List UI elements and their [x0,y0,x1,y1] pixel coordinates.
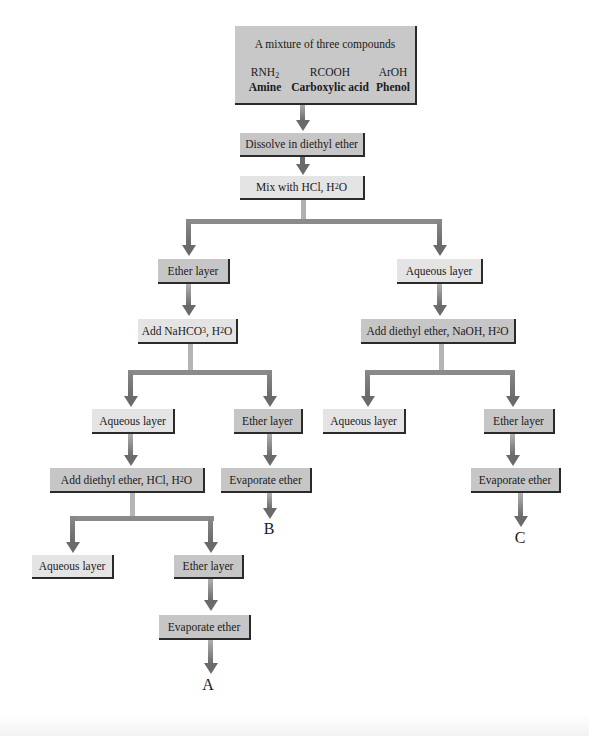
arrow-down-icon [182,245,196,256]
connector-line [128,370,133,398]
aqueous-layer-2: Aqueous layer [92,409,175,434]
step-evaporate-ether-a: Evaporate ether [159,615,251,640]
arrow-down-icon [296,120,310,131]
connector-line [301,200,306,220]
aqueous-layer-3: Aqueous layer [323,409,406,434]
connector-line [439,344,444,371]
arrow-down-icon [66,542,80,553]
arrow-down-icon [204,663,218,674]
arrow-down-icon [204,600,218,611]
product-b-label: B [259,520,279,538]
connector-line [208,640,213,664]
compound-amine: RNH2 Amine [245,66,285,93]
step-add-ether-hcl: Add diethyl ether, HCl, H2O [50,468,205,493]
arrow-down-icon [182,305,196,316]
aqueous-layer-1: Aqueous layer [397,259,483,284]
connector-line [186,284,191,306]
step-add-nahco3: Add NaHCO3, H2O [138,319,238,344]
branch-line [186,219,442,224]
connector-line [208,516,213,543]
arrow-down-icon [124,396,138,407]
connector-line [437,219,442,246]
compound-carboxylic-acid: RCOOH Carboxylic acid [285,66,375,93]
connector-line [437,284,442,306]
branch-line [70,516,214,521]
connector-line [300,105,305,121]
bottom-fade [0,714,589,736]
step-add-ether-naoh: Add diethyl ether, NaOH, H2O [361,319,516,344]
branch-line [128,370,272,375]
connector-line [267,370,272,398]
arrow-down-icon [263,508,277,519]
arrow-down-icon [263,455,277,466]
arrow-down-icon [506,396,520,407]
connector-line [510,434,515,456]
product-c-label: C [510,529,530,547]
connector-line [188,344,193,371]
arrow-down-icon [433,245,447,256]
connector-line [70,516,75,543]
connector-line [186,219,191,246]
branch-line [365,370,515,375]
aqueous-layer-4: Aqueous layer [32,555,114,579]
ether-layer-4: Ether layer [174,555,244,579]
ether-layer-2: Ether layer [234,409,303,434]
product-a-label: A [198,676,218,694]
connector-line [267,434,272,456]
connector-line [208,579,213,601]
arrow-down-icon [124,455,138,466]
step-mix-hcl: Mix with HCl, H2O [240,176,365,200]
starting-mixture-box: A mixture of three compounds RNH2 Amine … [235,26,417,105]
step-evaporate-ether-b: Evaporate ether [221,468,312,493]
connector-line [128,434,133,456]
step-evaporate-ether-c: Evaporate ether [471,468,561,493]
arrow-down-icon [433,305,447,316]
mixture-title: A mixture of three compounds [235,38,415,50]
arrow-down-icon [204,542,218,553]
arrow-down-icon [361,396,375,407]
connector-line [365,370,370,398]
connector-line [510,370,515,398]
connector-line [518,493,523,517]
connector-line [267,493,272,509]
arrow-down-icon [263,396,277,407]
arrow-down-icon [296,164,310,175]
arrow-down-icon [506,455,520,466]
ether-layer-1: Ether layer [158,259,230,284]
arrow-down-icon [514,516,528,527]
connector-line [130,493,135,517]
compound-phenol: ArOH Phenol [373,66,413,93]
ether-layer-3: Ether layer [484,409,555,434]
step-dissolve-in-ether: Dissolve in diethyl ether [240,133,365,157]
